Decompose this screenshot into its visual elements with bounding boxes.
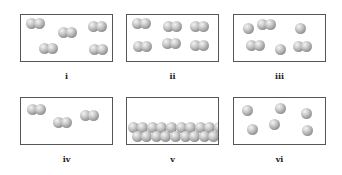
atom [247, 124, 258, 135]
panel-label-v: v [126, 154, 219, 164]
atom [269, 119, 280, 130]
molecule-atom [47, 43, 58, 54]
molecule-atom [66, 27, 77, 38]
molecule-atom [97, 44, 108, 55]
molecule-atom [61, 117, 72, 128]
molecule-atom [34, 18, 45, 29]
atom [243, 23, 254, 34]
atom [275, 103, 286, 114]
atom [295, 23, 306, 34]
atom [275, 44, 286, 55]
panel-label-i: i [20, 71, 113, 81]
molecule-atom [198, 40, 209, 51]
panel-ii [126, 14, 219, 62]
molecule-atom [171, 21, 182, 32]
panel-label-ii: ii [126, 71, 219, 81]
molecule-atom [254, 40, 265, 51]
molecule-atom [96, 21, 107, 32]
molecule-atom [140, 18, 151, 29]
panel-label-iii: iii [233, 71, 326, 81]
atom [301, 108, 312, 119]
molecule-atom [170, 38, 181, 49]
molecule-atom [265, 19, 276, 30]
panel-v [126, 97, 219, 145]
molecule-atom [35, 104, 46, 115]
molecule-atom [301, 41, 312, 52]
panel-iv [20, 97, 113, 145]
condensed-atom [218, 131, 219, 142]
panel-vi [233, 97, 326, 145]
panel-label-iv: iv [20, 154, 113, 164]
panel-label-vi: vi [233, 154, 326, 164]
atom [302, 125, 313, 136]
molecule-atom [141, 41, 152, 52]
molecule-atom [198, 21, 209, 32]
atom [242, 105, 253, 116]
panel-iii [233, 14, 326, 62]
molecule-atom [88, 110, 99, 121]
panel-i [20, 14, 113, 62]
